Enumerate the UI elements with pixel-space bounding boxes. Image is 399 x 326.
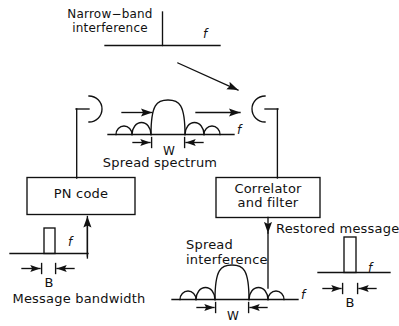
correlator-box-label-line2[interactable]: and filter (216, 196, 320, 211)
spread-interference-plot (172, 265, 298, 300)
spread-spectrum-caption: Spread spectrum (96, 156, 224, 171)
pn-input-freq-label: f (68, 236, 72, 249)
spread-interference-width-label: W (227, 310, 239, 323)
message-bandwidth-caption: Message bandwidth (4, 292, 154, 307)
narrowband-interference-label-line2: interference (60, 22, 160, 35)
restored-pulse-freq-label: f (368, 262, 372, 275)
interference-arrow (178, 63, 238, 90)
restored-bandwidth-symbol: B (339, 296, 361, 311)
message-bandwidth-markers (22, 264, 74, 274)
receive-antenna-icon (252, 96, 278, 178)
narrowband-freq-axis-label: f (203, 28, 207, 41)
restored-bandwidth-markers (323, 284, 376, 294)
message-bandwidth-plot (10, 225, 88, 258)
spread-interference-freq-label: f (301, 289, 305, 302)
narrowband-interference-label-line1: Narrow−band (60, 8, 160, 21)
spread-interference-label-line1: Spread (186, 238, 233, 253)
restored-message-plot (318, 237, 390, 273)
spread-spectrum-freq-label: f (237, 124, 241, 137)
spread-spectrum-plot (108, 100, 234, 135)
message-bandwidth-symbol: B (38, 276, 60, 291)
restored-message-label: Restored message (276, 222, 399, 237)
spread-interference-label-line2: interference (186, 253, 268, 268)
pn-code-box-label[interactable]: PN code (27, 187, 135, 202)
